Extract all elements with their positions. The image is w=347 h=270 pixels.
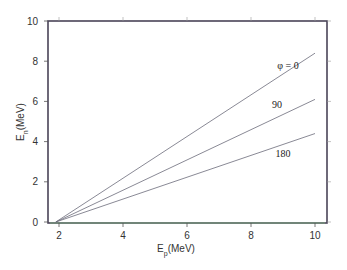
x-axis-ticks: 246810 xyxy=(56,17,321,241)
series-lines xyxy=(56,53,315,222)
series-line xyxy=(56,99,315,222)
y-tick-label: 4 xyxy=(32,136,38,147)
x-tick-label: 6 xyxy=(184,230,190,241)
y-tick-label: 2 xyxy=(32,176,38,187)
chart: 246810 0246810 φ = 090180 Ep(MeV) En(MeV… xyxy=(0,0,347,270)
series-labels: φ = 090180 xyxy=(272,60,299,159)
y-tick-label: 0 xyxy=(32,217,38,228)
x-tick-label: 8 xyxy=(248,230,254,241)
y-axis-ticks: 0246810 xyxy=(27,16,331,228)
series-label: 180 xyxy=(276,148,291,159)
x-tick-label: 2 xyxy=(56,230,62,241)
plot-border xyxy=(48,21,327,223)
y-axis-label: En(MeV) xyxy=(15,103,29,141)
x-tick-label: 10 xyxy=(309,230,321,241)
plot-frame xyxy=(48,21,327,223)
y-tick-label: 6 xyxy=(32,96,38,107)
series-line xyxy=(56,53,315,222)
series-line xyxy=(56,134,315,222)
x-tick-label: 4 xyxy=(120,230,126,241)
series-label: φ = 0 xyxy=(277,60,298,71)
x-axis-label: Ep(MeV) xyxy=(157,243,195,258)
y-tick-label: 8 xyxy=(32,56,38,67)
series-label: 90 xyxy=(272,99,282,110)
y-tick-label: 10 xyxy=(27,16,39,27)
